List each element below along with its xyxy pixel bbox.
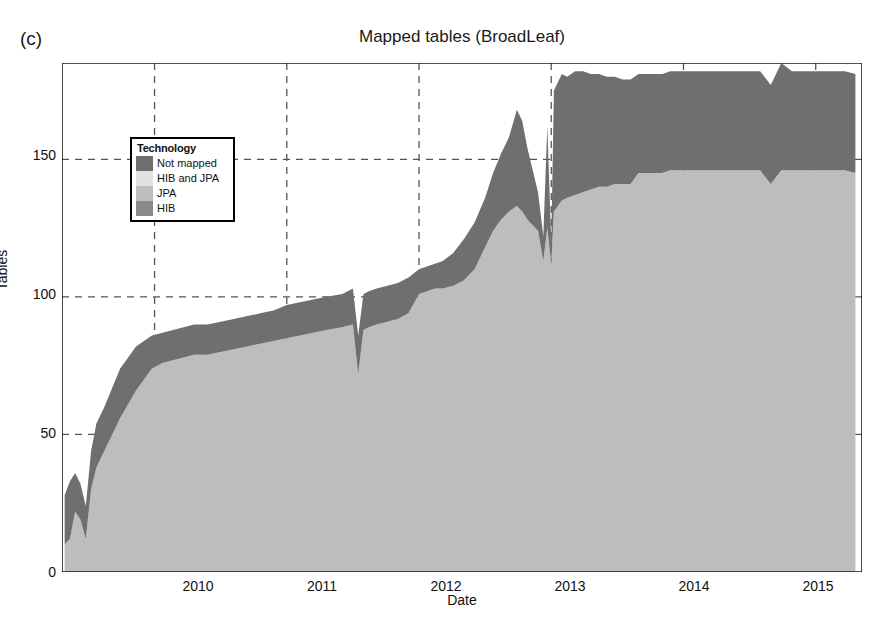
legend-swatch-not-mapped	[136, 156, 153, 171]
legend-swatch-hib-and-jpa	[136, 171, 153, 186]
legend-item-not-mapped: Not mapped	[157, 156, 219, 171]
legend-item-hib-and-jpa: HIB and JPA	[157, 171, 219, 186]
area-series-jpa	[65, 170, 856, 572]
legend-swatch-jpa	[136, 186, 153, 201]
x-axis-label: Date	[62, 592, 862, 608]
legend-title: Technology	[137, 142, 229, 154]
legend-item-hib: HIB	[157, 201, 219, 216]
legend-item-jpa: JPA	[157, 186, 219, 201]
legend-label-column: Not mapped HIB and JPA JPA HIB	[157, 156, 219, 216]
legend-swatch-hib	[136, 201, 153, 216]
legend-swatch-column	[136, 156, 153, 216]
legend-body: Not mapped HIB and JPA JPA HIB	[136, 156, 229, 216]
plot-area: Technology Not mapped HIB and JPA JPA HI…	[62, 63, 862, 572]
legend: Technology Not mapped HIB and JPA JPA HI…	[130, 137, 235, 222]
figure-root: (c) Mapped tables (BroadLeaf) 0 50 100 1…	[0, 0, 885, 622]
